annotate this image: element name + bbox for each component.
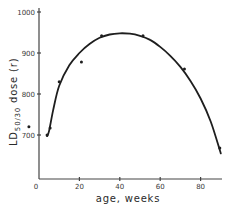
- x-tick-label: 40: [115, 183, 124, 191]
- y-tick-label: 700: [22, 132, 35, 140]
- x-axis-title: age, weeks: [96, 193, 160, 204]
- x-tick-label: 60: [156, 183, 165, 191]
- y-tick-label: 1000: [17, 9, 35, 17]
- y-tick-label: 800: [22, 91, 35, 99]
- y-axis-title-main: LD: [8, 131, 19, 146]
- fitted-curve: [47, 33, 221, 153]
- x-tick-label: 20: [75, 183, 84, 191]
- y-axis-title: LD50/30 dose (r): [8, 58, 22, 146]
- x-tick-label: 0: [34, 183, 38, 191]
- y-tick-label: 900: [22, 50, 35, 58]
- x-tick-label: 80: [196, 183, 205, 191]
- y-axis-title-rest: dose (r): [8, 58, 19, 107]
- data-point: [80, 61, 83, 64]
- y-axis-title-subscript: 50/30: [14, 107, 22, 131]
- data-point: [183, 67, 186, 70]
- data-point: [218, 147, 221, 150]
- data-point: [58, 80, 61, 83]
- data-point: [46, 134, 49, 137]
- data-point: [49, 127, 52, 130]
- data-point: [142, 34, 145, 37]
- data-point: [27, 125, 30, 128]
- data-point: [100, 34, 103, 37]
- chart: 7008009001000 020406080 age, weeks LD50/…: [0, 0, 227, 208]
